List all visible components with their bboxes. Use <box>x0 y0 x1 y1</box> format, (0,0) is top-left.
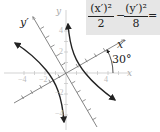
term2-numerator: (y′)² <box>124 3 148 15</box>
x-prime-label: x′ <box>117 38 126 51</box>
x-tick-label: −4 <box>18 75 27 84</box>
term1-numerator: (x′)² <box>88 3 114 15</box>
y-tick-label: 2 <box>59 47 63 56</box>
term1-fraction: (x′)² 2 <box>88 3 114 30</box>
equation: (x′)² 2 − (y′)² 8 = 1 <box>88 2 160 34</box>
y-tick-label: 4 <box>59 26 63 35</box>
term2-denominator: 8 <box>124 18 148 30</box>
term1-denominator: 2 <box>88 18 114 30</box>
x-tick-label: −2 <box>39 75 48 84</box>
x-axis-label: x <box>127 68 132 78</box>
angle-label: 30° <box>112 53 132 66</box>
y-tick-label: −2 <box>55 88 64 97</box>
equals-one: = 1 <box>148 10 160 22</box>
y-axis-label: y <box>56 6 61 16</box>
rotated-hyperbola-figure: (x′)² 2 − (y′)² 8 = 1 y x y′ x′ 30° −4 −… <box>0 0 160 132</box>
y-prime-label: y′ <box>20 16 29 29</box>
y-axis <box>64 10 68 130</box>
x-tick-label: 4 <box>104 75 108 84</box>
term2-fraction: (y′)² 8 <box>124 3 148 30</box>
y-tick-label: −4 <box>55 109 64 118</box>
